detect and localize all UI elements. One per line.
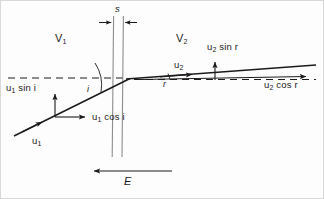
region-left-label: V1	[55, 33, 66, 45]
incident-speed-subscript: 1	[37, 140, 41, 147]
figure-border	[1, 1, 324, 199]
incident-parallel-component-label: u1 cos i	[92, 112, 125, 123]
region-right-symbol: V	[176, 32, 184, 44]
incident-speed-label: u1	[32, 136, 41, 147]
refraction-diagram: s V1 V2 u1 sin i i u1 cos i u1 u2 u2 sin…	[0, 0, 324, 199]
refracted-perp-rest: sin r	[216, 41, 238, 52]
diagram-canvas	[0, 0, 324, 199]
slab-right-wall	[122, 16, 123, 157]
incident-perpendicular-component-label: u1 sin i	[6, 83, 36, 94]
incident-ray-arrow	[22, 122, 42, 132]
region-left-symbol: V	[55, 32, 63, 44]
incident-par-rest: cos i	[101, 111, 124, 122]
refracted-speed-subscript: 2	[179, 64, 183, 71]
region-right-subscript: 2	[184, 38, 188, 45]
region-right-label: V2	[176, 33, 187, 45]
incident-perp-rest: sin i	[15, 82, 36, 93]
refracted-perpendicular-component-label: u2 sin r	[207, 42, 238, 53]
refracted-par-rest: cos r	[273, 79, 297, 90]
region-left-subscript: 1	[63, 38, 67, 45]
refracted-parallel-component-label: u2 cos r	[264, 80, 298, 91]
refracted-speed-label: u2	[174, 60, 183, 71]
field-label: E	[124, 176, 132, 187]
angle-of-refraction-label: r	[163, 80, 166, 89]
angle-of-incidence-label: i	[87, 85, 89, 94]
slab-thickness-label: s	[115, 4, 120, 14]
